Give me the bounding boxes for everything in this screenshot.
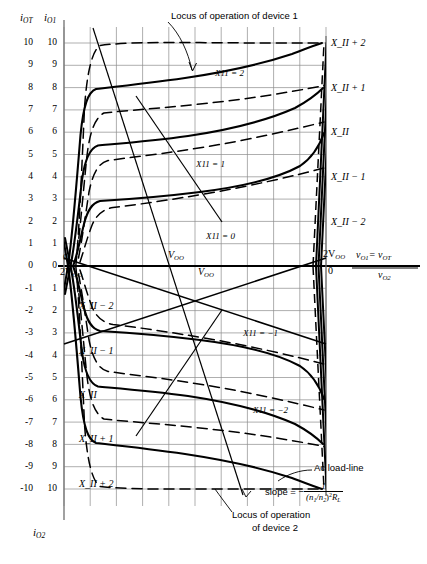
edge-label-lower-0: X_II − 2 — [79, 301, 114, 311]
tick-right-lower-3: 3 — [37, 328, 57, 338]
tick-left-neg7: -7 — [9, 418, 33, 428]
edge-label-upper-4: X_II − 2 — [331, 217, 366, 227]
curve-label-x11-0: X11 = 0 — [206, 232, 235, 241]
tick-left-2: 2 — [13, 217, 33, 227]
leader-locus-1 — [168, 22, 192, 70]
annotation-locus-device-2-line1: Locus of operation — [232, 510, 310, 520]
tick-right-4: 4 — [37, 172, 57, 182]
annotation-locus-device-2-line2: of device 2 — [252, 523, 298, 533]
tick-right-9: 9 — [37, 60, 57, 70]
dashed-curve-upper-3 — [79, 122, 325, 258]
curve-label-x11-1: X11 = 1 — [196, 160, 225, 169]
y-axis-bottom-title: iO2 — [33, 527, 45, 540]
quiescent-label-upper: VOO — [168, 250, 184, 262]
x-axis-v1-sub: O1 — [360, 254, 368, 261]
edge-label-lower-1: X_II − 1 — [79, 346, 114, 356]
tick-right-0: 0 — [37, 261, 57, 271]
tick-left-neg6: -6 — [9, 395, 33, 405]
quiescent-lower-sub: OO — [204, 271, 214, 278]
tick-left-10: 10 — [13, 38, 33, 48]
edge-label-upper-3: X_II − 1 — [331, 172, 366, 182]
tick-left-7: 7 — [13, 105, 33, 115]
tick-right-lower-9: 9 — [37, 462, 57, 472]
edge-label-upper-1: X_II + 1 — [331, 83, 366, 93]
edge-label-upper-2: X_II — [331, 127, 349, 137]
curve-label-x11-neg1: X11 = −1 — [243, 329, 278, 338]
edge-label-lower-4: X_II + 2 — [79, 479, 114, 489]
slope-denominator: (n1/n2)2RL — [304, 492, 343, 504]
edge-label-lower-3: X_II + 1 — [79, 434, 114, 444]
x-axis-eq: = v — [369, 249, 383, 260]
tick-right-6: 6 — [37, 127, 57, 137]
tick-left-9: 9 — [13, 60, 33, 70]
annotation-locus-device-1: Locus of operation of device 1 — [171, 11, 298, 21]
tick-right-lower-1: 1 — [37, 284, 57, 294]
tick-left-8: 8 — [13, 83, 33, 93]
top-tick-marks — [64, 27, 326, 36]
tick-right-lower-6: 6 — [37, 395, 57, 405]
tick-left-3: 3 — [13, 194, 33, 204]
tick-left-neg2: -2 — [9, 306, 33, 316]
x-axis-v2-sub: O2 — [382, 274, 390, 281]
annotation-leaders — [168, 22, 312, 512]
tick-right-3: 3 — [37, 194, 57, 204]
tick-right-lower-7: 7 — [37, 418, 57, 428]
left-2voo-label: 2VOO — [60, 267, 82, 279]
tick-left-5: 5 — [13, 150, 33, 160]
tick-right-lower-5: 5 — [37, 373, 57, 383]
edge-label-lower-2: X_II — [79, 390, 97, 400]
edge-label-upper-0: X_II + 2 — [331, 38, 366, 48]
slope-fraction: 1(n1/n2)2RL — [304, 481, 343, 504]
x-axis-v1-sub2: OT — [382, 254, 391, 261]
tick-right-lower-2: 2 — [37, 306, 57, 316]
tick-left-neg1: -1 — [9, 284, 33, 294]
left-2voo-text: 2V — [60, 266, 72, 277]
tick-left-neg4: -4 — [9, 351, 33, 361]
solid-curve-x11-neg3 — [73, 266, 324, 399]
right-origin-zero: 0 — [328, 266, 333, 276]
x-axis-title-bottom: vO2 — [378, 270, 391, 282]
tick-right-7: 7 — [37, 105, 57, 115]
tick-left-6: 6 — [13, 127, 33, 137]
slope-prefix: slope = − — [265, 486, 304, 497]
leader-locus-2 — [215, 489, 232, 512]
left-2voo-sub: OO — [72, 271, 82, 278]
tick-left-0: 0 — [13, 261, 33, 271]
tick-right-10: 10 — [37, 38, 57, 48]
tick-right-2: 2 — [37, 217, 57, 227]
x-axis-title-top: vO1= vOT — [356, 250, 391, 262]
quiescent-upper-sub: OO — [174, 254, 184, 261]
tick-right-5: 5 — [37, 150, 57, 160]
solid-curve-x11-0 — [73, 133, 324, 266]
tick-left-neg8: -8 — [9, 440, 33, 450]
curve-label-x11-2: X11 = 2 — [215, 69, 244, 78]
quiescent-label-lower: VOO — [198, 267, 214, 279]
tick-left-neg5: -5 — [9, 373, 33, 383]
right-2voo-label: 2VOO — [323, 249, 345, 261]
right-2voo-text: 2V — [323, 248, 335, 259]
figure-composite-characteristics: iOT iO1 iO2 10 9 8 7 6 5 4 3 2 1 0 10 9 … — [0, 0, 427, 564]
y-axis-left-title: iOT — [20, 12, 33, 25]
tick-left-neg3: -3 — [9, 328, 33, 338]
tick-left-neg9: -9 — [9, 462, 33, 472]
tick-left-4: 4 — [13, 172, 33, 182]
annotation-slope-formula: slope = −1(n1/n2)2RL — [265, 481, 343, 504]
slope-den-d-sub: L — [337, 497, 340, 503]
tick-right-8: 8 — [37, 83, 57, 93]
tick-left-1: 1 — [13, 239, 33, 249]
y-axis-right-title: iO1 — [44, 12, 56, 25]
tick-right-lower-4: 4 — [37, 351, 57, 361]
curve-label-x11-neg2: X11 = −2 — [253, 406, 288, 415]
tick-right-1: 1 — [37, 239, 57, 249]
leader-loadline-arrow — [242, 489, 251, 497]
tick-right-lower-10: 10 — [37, 484, 57, 494]
dashed-curve-lower-3 — [79, 274, 325, 410]
left-origin-zero: 0 — [63, 253, 68, 262]
tick-right-lower-8: 8 — [37, 440, 57, 450]
slope-numerator: 1 — [304, 481, 343, 492]
right-2voo-sub: OO — [335, 253, 345, 260]
annotation-ac-load-line: Ac load-line — [314, 463, 364, 473]
tick-left-neg10: -10 — [9, 484, 33, 494]
